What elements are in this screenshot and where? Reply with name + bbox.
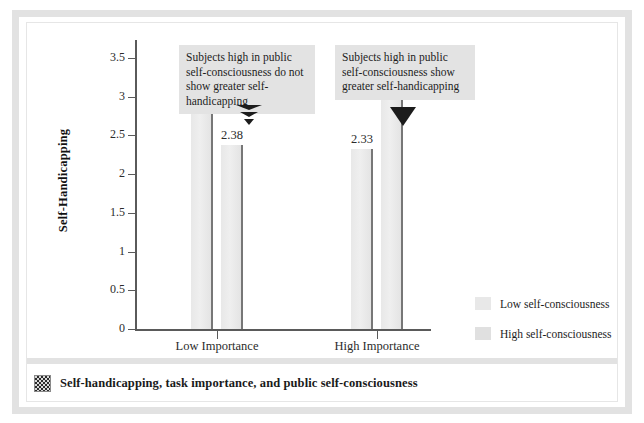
striped-down-triangle-icon bbox=[236, 105, 262, 125]
plot-area: Self-Handicapping 00.511.522.533.5 2.812… bbox=[27, 23, 617, 356]
y-tick-label: 1 bbox=[83, 244, 125, 259]
bar-low-importance-high bbox=[221, 145, 243, 329]
callout-high-importance: Subjects high in public self-consciousne… bbox=[335, 45, 475, 100]
x-axis-line bbox=[135, 329, 431, 331]
y-tick bbox=[128, 213, 136, 214]
caption-divider bbox=[27, 358, 617, 364]
y-axis-line bbox=[135, 40, 137, 331]
bar-low-importance-low bbox=[191, 111, 213, 329]
legend-item: High self-consciousness bbox=[475, 323, 617, 344]
legend-label: Low self-consciousness bbox=[500, 298, 610, 310]
bar-high-importance-low bbox=[351, 149, 373, 329]
y-tick-label: 0.5 bbox=[83, 282, 125, 297]
y-tick-label: 0 bbox=[83, 321, 125, 336]
chart-legend: Low self-consciousnessHigh self-consciou… bbox=[475, 293, 617, 353]
figure-container: Self-Handicapping 00.511.522.533.5 2.812… bbox=[0, 0, 644, 423]
y-tick bbox=[128, 135, 136, 136]
x-tick-label: Low Importance bbox=[147, 339, 287, 354]
chart-panel: Self-Handicapping 00.511.522.533.5 2.812… bbox=[27, 23, 617, 356]
y-axis-title: Self-Handicapping bbox=[56, 101, 71, 261]
y-tick-label: 3 bbox=[83, 89, 125, 104]
figure-caption: Self-handicapping, task importance, and … bbox=[60, 376, 418, 391]
legend-label: High self-consciousness bbox=[500, 328, 611, 340]
legend-item: Low self-consciousness bbox=[475, 293, 617, 314]
callout-low-importance: Subjects high in public self-consciousne… bbox=[179, 45, 315, 114]
y-tick bbox=[128, 329, 136, 330]
solid-down-triangle-icon bbox=[390, 107, 416, 126]
x-tick bbox=[217, 331, 218, 339]
y-tick bbox=[128, 174, 136, 175]
legend-swatch bbox=[475, 327, 491, 340]
y-tick-label: 3.5 bbox=[83, 50, 125, 65]
x-tick bbox=[377, 331, 378, 339]
dither-square-icon bbox=[34, 375, 51, 392]
y-tick-label: 2.5 bbox=[83, 127, 125, 142]
y-tick-label: 2 bbox=[83, 166, 125, 181]
y-tick bbox=[128, 97, 136, 98]
y-tick bbox=[128, 58, 136, 59]
bar-value-label: 2.38 bbox=[202, 128, 262, 143]
y-tick-label: 1.5 bbox=[83, 205, 125, 220]
x-tick-label: High Importance bbox=[307, 339, 447, 354]
legend-swatch bbox=[475, 297, 491, 310]
caption-bar: Self-handicapping, task importance, and … bbox=[27, 366, 617, 401]
y-tick bbox=[128, 252, 136, 253]
y-tick bbox=[128, 290, 136, 291]
